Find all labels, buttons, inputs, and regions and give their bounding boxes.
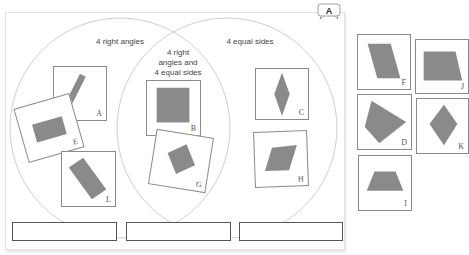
- card-letter: L: [106, 195, 111, 204]
- intersection-label-line1: 4 right: [146, 48, 210, 58]
- card-k[interactable]: K: [416, 98, 469, 154]
- svg-text:A: A: [326, 6, 333, 16]
- card-letter: C: [299, 108, 304, 117]
- intersection-label: 4 right angles and 4 equal sides: [146, 48, 210, 78]
- card-l[interactable]: L: [61, 151, 116, 207]
- card-i[interactable]: I: [358, 155, 412, 211]
- card-letter: A: [96, 109, 102, 118]
- right-set-label: 4 equal sides: [215, 37, 285, 47]
- card-d[interactable]: D: [357, 94, 412, 150]
- card-letter: K: [458, 142, 464, 151]
- card-f[interactable]: F: [357, 34, 411, 90]
- card-letter: H: [298, 174, 304, 183]
- speech-bubble-a-icon[interactable]: A: [317, 3, 341, 20]
- answer-box-left[interactable]: [12, 222, 117, 241]
- intersection-label-line3: 4 equal sides: [146, 68, 210, 78]
- card-letter: J: [461, 82, 464, 91]
- card-g[interactable]: G: [148, 129, 214, 193]
- card-letter: I: [404, 199, 407, 208]
- card-letter: F: [402, 78, 406, 87]
- card-letter: D: [401, 138, 407, 147]
- answer-box-middle[interactable]: [126, 222, 231, 241]
- card-b[interactable]: B: [146, 80, 201, 136]
- card-letter: B: [191, 124, 196, 133]
- left-set-label: 4 right angles: [85, 37, 155, 47]
- card-h[interactable]: H: [253, 130, 309, 188]
- card-j[interactable]: J: [415, 39, 469, 94]
- intersection-label-line2: angles and: [146, 58, 210, 68]
- card-c[interactable]: C: [255, 68, 309, 120]
- answer-box-right[interactable]: [239, 222, 343, 241]
